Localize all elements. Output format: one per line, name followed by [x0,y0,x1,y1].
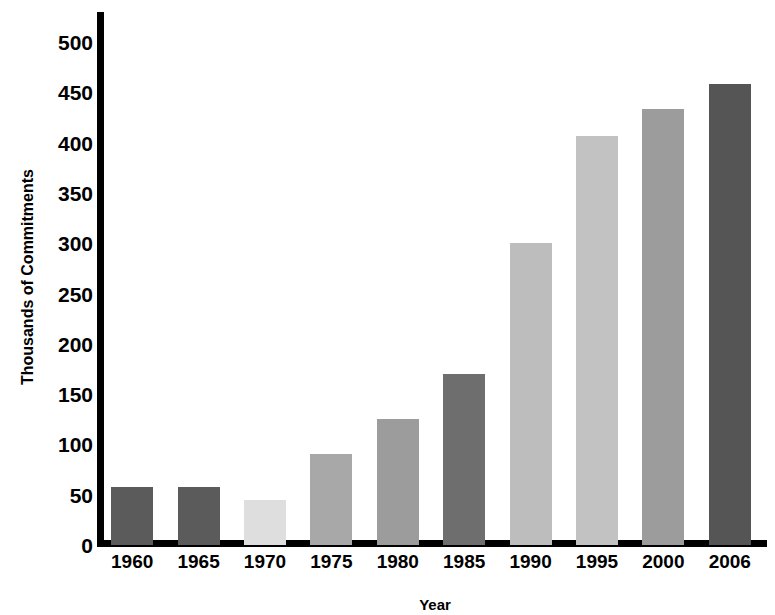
bar [709,84,751,545]
bar [244,500,286,545]
bar [576,136,618,545]
x-axis-tick-label: 1980 [365,552,431,573]
y-axis-ticks: 050100150200250300350400450500 [0,0,93,615]
x-axis-tick-label: 2006 [697,552,763,573]
y-axis-tick-label: 50 [7,484,93,505]
bar [642,109,684,545]
x-axis-tick-label: 1995 [564,552,630,573]
x-axis-tick-label: 1990 [497,552,563,573]
bar [111,487,153,545]
bar [178,487,220,545]
x-axis-tick-label: 2000 [630,552,696,573]
x-axis-tick-label: 1975 [298,552,364,573]
y-axis-tick-label: 0 [7,535,93,556]
y-axis-tick-label: 450 [7,82,93,103]
y-axis-tick-label: 100 [7,434,93,455]
bar [443,374,485,545]
x-axis-ticks: 1960196519701975198019851990199520002006 [103,552,767,582]
x-axis-tick-label: 1985 [431,552,497,573]
x-axis-title: Year [103,596,767,613]
bar [510,243,552,545]
bar-chart: 050100150200250300350400450500 Thousands… [0,0,775,615]
x-axis-tick-label: 1970 [232,552,298,573]
y-axis-tick-label: 500 [7,32,93,53]
bar [377,419,419,545]
x-axis-tick-label: 1965 [165,552,231,573]
y-axis-title: Thousands of Commitments [19,127,37,427]
plot-area [103,14,767,545]
bar [310,454,352,545]
x-axis-tick-label: 1960 [99,552,165,573]
